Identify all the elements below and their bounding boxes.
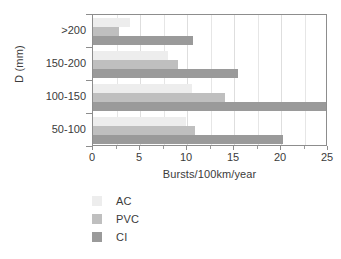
x-tick xyxy=(327,146,328,150)
x-tick xyxy=(233,146,234,150)
gridline-minor xyxy=(305,15,306,145)
bar-pvc-200 xyxy=(93,27,119,36)
bar-ci-50100 xyxy=(93,135,283,144)
legend-swatch-pvc xyxy=(92,214,102,224)
bar-ac-50100 xyxy=(93,117,186,126)
x-tick xyxy=(280,146,281,150)
legend-swatch-ci xyxy=(92,232,102,242)
gridline-minor xyxy=(211,15,212,145)
y-tick-label-group: >200150-200100-15050-100 xyxy=(26,14,86,146)
x-tick xyxy=(186,146,187,150)
bar-pvc-100150 xyxy=(93,93,225,102)
bar-ac-150200 xyxy=(93,51,168,60)
legend-item-ci: CI xyxy=(92,228,139,246)
legend-item-pvc: PVC xyxy=(92,210,139,228)
x-tick-minor xyxy=(257,146,258,149)
bar-ci-200 xyxy=(93,36,193,45)
bar-ac-100150 xyxy=(93,84,192,93)
x-tick-minor xyxy=(210,146,211,149)
legend-label-ac: AC xyxy=(116,195,132,207)
y-tick-label: 50-100 xyxy=(28,123,86,135)
gridline-major xyxy=(281,15,282,145)
gridline-major xyxy=(234,15,235,145)
y-tick-label: 100-150 xyxy=(28,90,86,102)
bar-ci-150200 xyxy=(93,69,238,78)
x-axis-title: Bursts/100km/year xyxy=(92,168,327,180)
plot-area xyxy=(92,14,327,146)
x-tick-label: 10 xyxy=(171,151,201,163)
gridline-minor xyxy=(258,15,259,145)
bar-pvc-50100 xyxy=(93,126,195,135)
x-tick xyxy=(92,146,93,150)
x-tick xyxy=(139,146,140,150)
x-tick-label: 0 xyxy=(77,151,107,163)
x-tick-label: 20 xyxy=(265,151,295,163)
bar-pvc-150200 xyxy=(93,60,178,69)
bar-ac-200 xyxy=(93,18,130,27)
x-tick-label: 25 xyxy=(312,151,341,163)
chart-legend: ACPVCCI xyxy=(92,192,139,246)
legend-label-ci: CI xyxy=(116,231,127,243)
y-axis-title: D (mm) xyxy=(13,29,25,99)
legend-item-ac: AC xyxy=(92,192,139,210)
y-tick-label: >200 xyxy=(28,24,86,36)
legend-label-pvc: PVC xyxy=(116,213,139,225)
x-tick-label: 15 xyxy=(218,151,248,163)
y-tick-label: 150-200 xyxy=(28,57,86,69)
legend-swatch-ac xyxy=(92,196,102,206)
x-tick-minor xyxy=(116,146,117,149)
bar-chart-figure: D (mm) >200150-200100-15050-100 05101520… xyxy=(0,0,341,259)
x-tick-label: 5 xyxy=(124,151,154,163)
bar-ci-100150 xyxy=(93,102,326,111)
x-tick-minor xyxy=(304,146,305,149)
x-tick-minor xyxy=(163,146,164,149)
